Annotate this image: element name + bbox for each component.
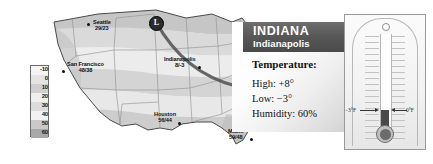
- city-label-san-francisco: San Francisco 48/38: [67, 61, 104, 73]
- city-temps: 56/44: [154, 117, 176, 123]
- right-pointer-line: [395, 110, 407, 111]
- thermometer-right-label: 0°F: [406, 107, 414, 113]
- thermometer-ticks-right: [391, 36, 405, 128]
- right-pointer-arrow-icon: [391, 108, 395, 112]
- thermometer-bulb-fill: [380, 129, 391, 140]
- humidity-value: Humidity: 60%: [252, 106, 317, 121]
- weather-map-graphic: -10 0 10 20 30 40 50 60: [0, 0, 433, 164]
- panel-readings: Temperature: High: +8° Low: −3° Humidity…: [252, 58, 317, 121]
- left-pointer-line: [360, 110, 375, 111]
- location-banner: INDIANA Indianapolis: [243, 22, 360, 52]
- city-dot-houston: [178, 122, 181, 125]
- city-temps: 59/48: [228, 134, 243, 140]
- temperature-heading: Temperature:: [252, 58, 317, 70]
- city-dot-seattle: [87, 23, 90, 26]
- low-temperature: Low: −3°: [252, 91, 317, 106]
- high-temperature: High: +8°: [252, 76, 317, 91]
- low-pressure-marker: L: [149, 16, 164, 31]
- city-dot-indianapolis: [198, 66, 201, 69]
- wall-thermometer: −3°F 0°F: [344, 14, 426, 150]
- city-label-houston: Houston 56/44: [154, 111, 176, 123]
- city-dot-san-francisco: [62, 70, 65, 73]
- city-label-seattle: Seattle 29/23: [93, 19, 111, 31]
- city-temps: 29/23: [93, 25, 111, 31]
- city-temps: 48/38: [67, 67, 104, 73]
- hanging-hole-icon: [382, 23, 390, 31]
- city-label-indianapolis: Indianapolis 8/-3: [164, 56, 195, 68]
- city-dot-miami: [250, 138, 253, 141]
- forecast-info-panel: INDIANA Indianapolis Temperature: High: …: [232, 22, 360, 132]
- city-temps: 8/-3: [164, 62, 195, 68]
- thermometer-left-label: −3°F: [345, 107, 356, 113]
- left-pointer-arrow-icon: [375, 108, 379, 112]
- thermometer-ticks-left: [365, 36, 379, 128]
